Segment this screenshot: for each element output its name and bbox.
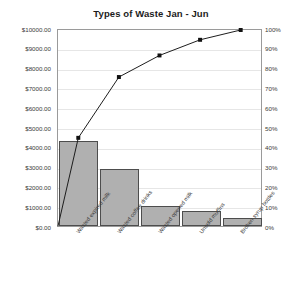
plot-area bbox=[57, 29, 262, 227]
y-left-tick-label: $8000.00 bbox=[25, 65, 51, 72]
y-right-tick-label: 40% bbox=[265, 144, 277, 151]
chart-title: Types of Waste Jan - Jun bbox=[0, 8, 302, 19]
line-marker-0[interactable] bbox=[76, 136, 80, 140]
y-right-tick-label: 90% bbox=[265, 45, 277, 52]
y-left-tick-label: $9000.00 bbox=[25, 45, 51, 52]
y-right-tick-label: 100% bbox=[265, 26, 281, 33]
y-left-tick-label: $5000.00 bbox=[25, 125, 51, 132]
y-left-tick-label: $3000.00 bbox=[25, 164, 51, 171]
y-left-tick-label: $6000.00 bbox=[25, 105, 51, 112]
y-left-tick-label: $2000.00 bbox=[25, 184, 51, 191]
y-right-tick-label: 50% bbox=[265, 125, 277, 132]
y-left-tick-label: $10000.00 bbox=[22, 26, 51, 33]
pareto-chart: Types of Waste Jan - Jun $10000.00$9000.… bbox=[0, 0, 302, 293]
x-axis-category-labels: Wasted expired milkWasted coffee drinksW… bbox=[0, 227, 302, 293]
y-right-tick-label: 70% bbox=[265, 85, 277, 92]
y-right-tick-label: 60% bbox=[265, 105, 277, 112]
y-left-tick-label: $4000.00 bbox=[25, 144, 51, 151]
line-marker-4[interactable] bbox=[239, 28, 243, 32]
line-marker-1[interactable] bbox=[117, 75, 121, 79]
y-left-tick-label: $7000.00 bbox=[25, 85, 51, 92]
line-marker-3[interactable] bbox=[198, 38, 202, 42]
y-right-tick-label: 80% bbox=[265, 65, 277, 72]
y-left-tick-label: $1000.00 bbox=[25, 204, 51, 211]
cumulative-line-layer bbox=[58, 30, 261, 226]
line-marker-2[interactable] bbox=[158, 53, 162, 57]
y-right-tick-label: 30% bbox=[265, 164, 277, 171]
